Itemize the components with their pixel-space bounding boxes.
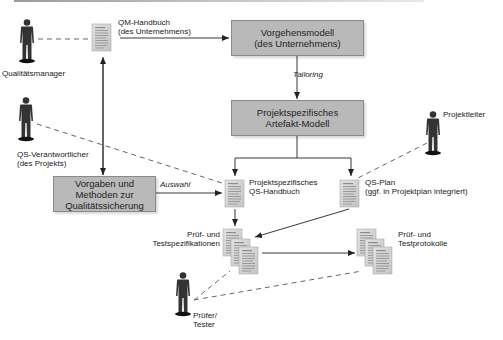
label-line: Prüf- und [398,230,447,239]
arrow-artefakt-branches [235,135,351,176]
box-label-line: Vorgaben und [75,178,134,189]
label-line: QS-Handbuch [249,187,317,196]
box-label-line: (des Unternehmens) [254,38,341,49]
label-line: (des Projekts) [17,159,89,168]
box-label-line: Projektspezifisches [257,107,338,118]
label-line: Prüf- und [152,230,220,239]
person-icon-qs-verantwortlicher [18,97,34,141]
document-icon-qm-handbuch [92,24,111,51]
box-vorgehensmodell: Vorgehensmodell (des Unternehmens) [231,20,364,56]
box-vorgaben-methoden: Vorgaben und Methoden zur Qualitätssiche… [53,176,156,212]
dashed-pruefer-spec [194,271,230,300]
dashed-pruefer-protokolle [194,271,362,300]
doc-label-qm-handbuch: QM-Handbuch (des Unternehmens) [118,18,191,36]
document-icon-qs-handbuch [225,180,244,207]
doc-label-qs-plan: QS-Plan (ggf. in Projektplan integriert) [365,178,468,196]
doc-label-pruef-testprotokolle: Prüf- und Testprotokolle [398,230,447,248]
actor-label-pruefer-tester: Prüfer/ Tester [193,311,217,329]
label-line: Testprotokolle [398,239,447,248]
person-icon-projektleiter [425,111,441,155]
dashed-projektleiter-qs-plan [358,143,427,178]
label-line: (ggf. in Projektplan integriert) [365,187,468,196]
actor-label-projektleiter: Projektleiter [443,110,485,119]
actor-label-qs-verantwortlicher: QS-Verantwortlicher (des Projekts) [17,150,89,168]
box-artefakt-modell: Projektspezifisches Artefakt-Modell [231,100,364,136]
box-label-line: Vorgehensmodell [261,27,334,38]
actor-label-qualitaetsmanager: Qualitätsmanager [2,69,65,78]
doc-label-pruef-testspezifikationen: Prüf- und Testspezifikationen [152,230,220,248]
label-line: Tester [193,320,217,329]
box-label-line: Artefakt-Modell [266,118,330,129]
label-line: (des Unternehmens) [118,27,191,36]
label-line: QS-Plan [365,178,468,187]
box-label-line: Qualitätssicherung [65,200,144,211]
label-line: QM-Handbuch [118,18,191,27]
label-line: Prüfer/ [193,311,217,320]
label-line: QS-Verantwortlicher [17,150,89,159]
document-stack-icon-protokolle [357,229,392,274]
arrow-qs-plan-to-spec [255,209,349,237]
label-line: Testspezifikationen [152,239,220,248]
box-label-line: Methoden zur [75,189,133,200]
person-icon-pruefer-tester [175,272,191,316]
edge-label-auswahl: Auswahl [160,180,190,189]
document-icon-qs-plan [340,180,359,207]
label-line: Projektspezifisches [249,178,317,187]
document-stack-icon-spezifikationen [223,229,258,274]
person-icon-qualitaetsmanager [19,19,35,63]
doc-label-qs-handbuch: Projektspezifisches QS-Handbuch [249,178,317,196]
edge-label-tailoring: Tailoring [293,70,323,79]
